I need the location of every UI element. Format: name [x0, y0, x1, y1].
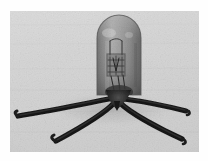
photo-alt-text: Monochrome photograph of an early vacuum…	[0, 0, 1, 1]
photograph	[10, 11, 199, 152]
photograph-canvas	[10, 11, 199, 152]
figure-root: Monochrome photograph of an early vacuum…	[0, 0, 208, 161]
